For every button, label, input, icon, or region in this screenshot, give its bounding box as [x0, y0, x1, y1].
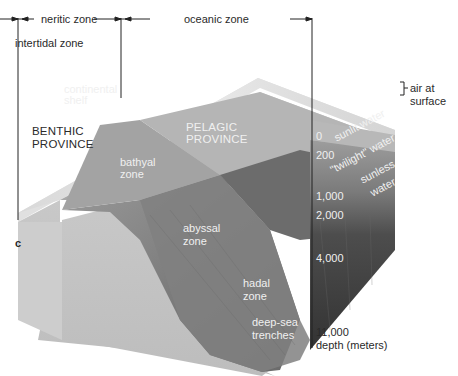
abyssal-label-line2: zone [183, 235, 207, 247]
ocean-zones-diagram: neritic zone oceanic zone intertidal zon… [0, 0, 458, 376]
bathyal-label-line1: bathyal [120, 156, 155, 168]
pelagic-label-line1: PELAGIC [186, 121, 237, 133]
hadal-label-line1: hadal [243, 277, 270, 289]
bathyal-label-line2: zone [120, 168, 144, 180]
depth-tick-4000: 4,000 [316, 252, 344, 264]
air-label: air at [410, 82, 434, 94]
abyssal-label-line1: abyssal [183, 222, 220, 234]
depth-tick-2000: 2,000 [316, 209, 344, 221]
pelagic-label-line2: PROVINCE [186, 133, 248, 145]
depth-tick-11000: 11,000 [316, 326, 349, 338]
depth-tick-1000: 1,000 [316, 190, 344, 202]
air-bracket [400, 82, 408, 95]
neritic-zone-label: neritic zone [41, 13, 97, 25]
oceanic-zone-label: oceanic zone [184, 13, 249, 25]
depth-unit-label: depth (meters) [316, 339, 388, 351]
surface-label: surface [410, 95, 446, 107]
depth-tick-200: 200 [316, 149, 334, 161]
trench-label-line2: trenches [252, 329, 294, 341]
hadal-label-line2: zone [243, 290, 267, 302]
shelf-label-line2: shelf [64, 94, 87, 106]
trench-label-line1: deep-sea [252, 316, 298, 328]
benthic-label-line1: BENTHIC [32, 125, 84, 137]
depth-tick-0: 0 [316, 130, 322, 142]
intertidal-zone-label: intertidal zone [15, 37, 84, 49]
panel-label: c [15, 237, 21, 249]
benthic-label-line2: PROVINCE [32, 138, 94, 150]
